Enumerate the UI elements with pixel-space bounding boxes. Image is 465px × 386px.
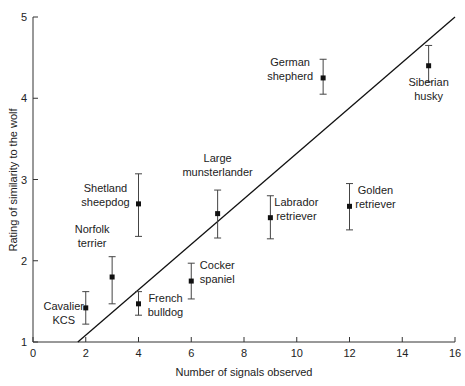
data-point-label: Labradorretriever (274, 196, 318, 222)
y-tick-label: 3 (21, 174, 27, 186)
x-tick-label: 6 (188, 347, 194, 359)
data-point-group: Goldenretriever (346, 184, 396, 230)
data-point-label: Norfolkterrier (75, 223, 110, 249)
data-point-marker (110, 275, 115, 280)
data-point-label-line: sheepdog (81, 196, 129, 208)
data-point-group: Cockerspaniel (188, 259, 235, 299)
y-tick-label: 5 (21, 11, 27, 23)
data-point-marker (83, 305, 88, 310)
data-point-label: Cockerspaniel (200, 259, 235, 285)
data-point-marker (215, 211, 220, 216)
data-point-label: Shetlandsheepdog (81, 182, 129, 208)
data-point-group: CavalierKCS (44, 292, 90, 326)
data-point-marker (321, 75, 326, 80)
data-point-marker (426, 63, 431, 68)
data-point-label-line: retriever (355, 198, 396, 210)
x-tick-label: 4 (135, 347, 141, 359)
data-point-marker (189, 279, 194, 284)
y-tick-label: 2 (21, 255, 27, 267)
data-point-label-line: Shetland (84, 182, 127, 194)
x-tick-label: 2 (83, 347, 89, 359)
data-point-group: Norfolkterrier (75, 223, 116, 304)
data-point-label-line: Labrador (274, 196, 318, 208)
data-point-label-line: husky (414, 90, 443, 102)
data-point-label-line: spaniel (200, 273, 235, 285)
x-tick-label: 0 (30, 347, 36, 359)
data-point-label-line: shepherd (267, 70, 313, 82)
data-point-group: Germanshepherd (267, 56, 326, 94)
data-point-label-line: Cavalier (44, 300, 85, 312)
data-point-marker (347, 204, 352, 209)
scatter-chart: 024681012141612345 CavalierKCSNorfolkter… (0, 0, 465, 386)
data-point-label-line: Siberian (408, 76, 448, 88)
data-point-label: Largemunsterlander (182, 152, 253, 178)
y-tick-label: 1 (21, 336, 27, 348)
data-point-marker (268, 215, 273, 220)
data-point-label-line: Cocker (200, 259, 235, 271)
data-point-marker (136, 201, 141, 206)
data-point-label-line: German (270, 56, 310, 68)
x-tick-label: 12 (343, 347, 355, 359)
trend-line (78, 17, 455, 342)
x-axis-label: Number of signals observed (176, 366, 313, 378)
x-tick-label: 10 (291, 347, 303, 359)
x-tick-label: 8 (241, 347, 247, 359)
data-point-label-line: French (148, 292, 182, 304)
y-axis-label: Rating of similarity to the wolf (7, 108, 19, 252)
y-tick-label: 4 (21, 92, 27, 104)
data-point-label-line: bulldog (148, 306, 183, 318)
data-point-label: Goldenretriever (355, 184, 396, 210)
data-points: CavalierKCSNorfolkterrierFrenchbulldogSh… (44, 45, 449, 325)
regression-line (78, 17, 455, 342)
data-point-group: Labradorretriever (267, 196, 319, 239)
data-point-label-line: retriever (276, 210, 317, 222)
data-point-label: Germanshepherd (267, 56, 313, 82)
data-point-group: Largemunsterlander (182, 152, 253, 238)
data-point-label-line: KCS (52, 314, 75, 326)
data-point-label-line: Large (204, 152, 232, 164)
x-tick-label: 16 (449, 347, 461, 359)
data-point-group: Siberianhusky (408, 45, 448, 101)
data-point-label-line: terrier (78, 237, 107, 249)
data-point-marker (136, 301, 141, 306)
data-point-label-line: Norfolk (75, 223, 110, 235)
data-point-label: Frenchbulldog (148, 292, 183, 318)
data-point-label: Siberianhusky (408, 76, 448, 102)
data-point-label: CavalierKCS (44, 300, 85, 326)
data-point-label-line: munsterlander (182, 166, 253, 178)
data-point-group: Frenchbulldog (135, 292, 183, 318)
x-tick-label: 14 (396, 347, 408, 359)
data-point-label-line: Golden (358, 184, 393, 196)
